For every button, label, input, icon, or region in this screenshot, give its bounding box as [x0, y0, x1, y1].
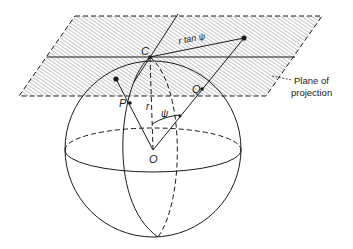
- callout-line2: projection: [291, 87, 332, 98]
- plane-callout: Plane of projection: [272, 75, 332, 98]
- label-o: O: [149, 153, 158, 165]
- projected-p-dot: [113, 76, 118, 81]
- projected-q-dot: [241, 35, 246, 40]
- point-p-dot: [128, 101, 132, 105]
- projection-plane: [19, 16, 322, 96]
- point-q-dot: [200, 87, 204, 91]
- label-q: Q: [192, 83, 201, 95]
- label-p: P: [119, 97, 127, 109]
- projection-diagram: C P Q O r ψ r tan ψ Plane of projection: [0, 0, 353, 249]
- angle-end-dot: [179, 115, 182, 118]
- callout-line1: Plane of: [294, 75, 329, 86]
- label-r: r: [146, 101, 150, 112]
- label-c: C: [141, 45, 149, 57]
- label-psi: ψ: [161, 108, 169, 119]
- diagram-canvas: C P Q O r ψ r tan ψ Plane of projection: [0, 0, 353, 249]
